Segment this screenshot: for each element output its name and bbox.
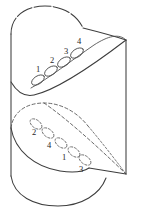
lower-chain-labels: 2 4 1 3 (32, 127, 83, 174)
upper-label-3: 3 (64, 46, 68, 56)
lower-dashed-inner-curve (88, 126, 126, 174)
upper-dome-arc (11, 6, 83, 34)
upper-oval-3 (56, 55, 72, 70)
lower-label-3: 3 (79, 164, 83, 174)
lower-oval-3 (53, 136, 69, 151)
lower-front-curve (11, 128, 89, 172)
upper-oval-2 (43, 64, 59, 79)
lower-oval-2 (40, 126, 56, 141)
upper-label-2: 2 (50, 55, 54, 65)
upper-oval-1 (30, 73, 46, 88)
saddle-front-curve (11, 40, 126, 95)
upper-dome-right-tail (83, 28, 126, 40)
lower-oval-chain (28, 117, 93, 168)
upper-chain-labels: 1 2 3 4 (36, 36, 82, 74)
lower-label-4: 4 (47, 140, 52, 150)
lower-label-1: 1 (62, 152, 66, 162)
diagram-canvas: 1 2 3 4 2 4 1 3 (0, 0, 142, 210)
cylinder-outline (11, 34, 126, 206)
saddle-surface-upper (11, 36, 126, 95)
lower-label-2: 2 (32, 127, 36, 137)
upper-oval-4 (69, 46, 85, 61)
lower-dome-group (11, 103, 126, 174)
upper-label-1: 1 (36, 64, 40, 74)
upper-dome-group (11, 6, 126, 40)
cylinder-bottom-arc (11, 176, 106, 206)
upper-label-4: 4 (77, 36, 82, 46)
geometric-diagram: 1 2 3 4 2 4 1 3 (0, 0, 142, 210)
